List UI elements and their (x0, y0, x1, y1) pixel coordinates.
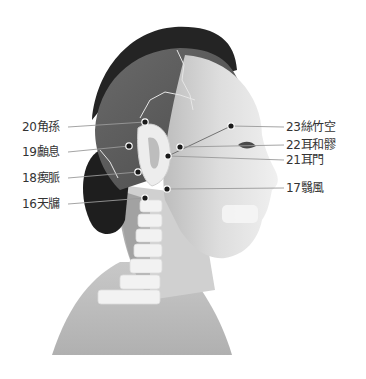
label-point-18: 18瘈脈 (22, 171, 60, 185)
label-point-20: 20角孫 (22, 120, 60, 134)
point-23-dot (228, 123, 234, 129)
label-point-17: 17翳風 (286, 181, 324, 195)
label-point-22: 22耳和髎 (286, 138, 336, 152)
point-19-dot (126, 143, 132, 149)
point-17-dot (164, 186, 170, 192)
point-21-dot (165, 153, 171, 159)
cheek-highlight (222, 205, 258, 223)
point-20-dot (142, 119, 148, 125)
point-16-dot (142, 195, 148, 201)
point-18-dot (135, 169, 141, 175)
label-point-16: 16天牖 (22, 197, 60, 211)
point-22-dot (177, 144, 183, 150)
label-point-23: 23絲竹空 (286, 120, 336, 134)
label-point-19: 19顱息 (22, 145, 60, 159)
label-point-21: 21耳門 (286, 153, 324, 167)
